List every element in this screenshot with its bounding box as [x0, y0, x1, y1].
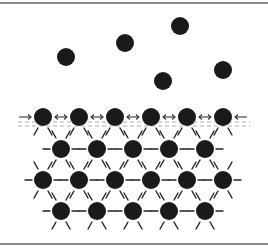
bond-line: [102, 193, 106, 200]
bond-line: [138, 222, 142, 229]
bond-line: [174, 222, 178, 229]
bulk-particle: [88, 202, 106, 220]
bond-line: [178, 191, 182, 198]
bond-line: [120, 191, 124, 198]
surface-particle: [142, 108, 160, 126]
bond-line: [214, 128, 218, 135]
bond-line: [174, 160, 178, 167]
bulk-particle: [214, 171, 232, 189]
bulk-particle: [196, 140, 214, 158]
bulk-particle: [52, 140, 70, 158]
gas-particle: [57, 48, 75, 66]
bond-line: [102, 131, 106, 138]
bond-line: [102, 160, 106, 167]
bond-line: [124, 160, 128, 167]
bond-line: [138, 160, 142, 167]
bond-line: [192, 128, 196, 135]
bond-line: [102, 222, 106, 229]
bond-line: [178, 162, 182, 169]
bond-line: [178, 128, 182, 135]
bond-line: [34, 128, 38, 135]
bond-line: [138, 131, 142, 138]
gas-phase-particles: [57, 17, 232, 90]
bond-line: [106, 128, 110, 135]
bond-line: [160, 160, 164, 167]
bond-line: [120, 128, 124, 135]
bond-line: [106, 162, 110, 169]
bond-line: [138, 193, 142, 200]
bond-line: [196, 131, 200, 138]
bond-line: [48, 128, 52, 135]
bond-line: [52, 222, 56, 229]
gas-particle: [214, 61, 232, 79]
bond-line: [156, 128, 160, 135]
bond-line: [66, 193, 70, 200]
bond-line: [66, 131, 70, 138]
gas-particle: [154, 72, 172, 90]
bond-line: [48, 191, 52, 198]
bond-line: [160, 131, 164, 138]
bulk-particle: [34, 171, 52, 189]
bond-line: [66, 160, 70, 167]
bond-line: [156, 162, 160, 169]
bond-line: [210, 193, 214, 200]
bulk-particle: [88, 140, 106, 158]
bond-line: [228, 191, 232, 198]
bond-line: [106, 191, 110, 198]
surface-particle: [214, 108, 232, 126]
bond-line: [88, 160, 92, 167]
bond-line: [192, 162, 196, 169]
bond-line: [52, 131, 56, 138]
bond-line: [142, 162, 146, 169]
bond-line: [174, 131, 178, 138]
bulk-particle: [124, 202, 142, 220]
bond-line: [160, 222, 164, 229]
bond-line: [88, 131, 92, 138]
bond-line: [214, 162, 218, 169]
bond-line: [210, 131, 214, 138]
bond-line: [66, 222, 70, 229]
bond-line: [84, 162, 88, 169]
bulk-particle: [124, 140, 142, 158]
surface-particle: [106, 108, 124, 126]
bulk-particle: [106, 171, 124, 189]
bond-line: [84, 191, 88, 198]
bond-line: [70, 128, 74, 135]
bond-line: [70, 162, 74, 169]
bond-line: [160, 193, 164, 200]
bond-line: [214, 191, 218, 198]
bond-line: [124, 193, 128, 200]
gas-particle: [116, 34, 134, 52]
surface-particle: [34, 108, 52, 126]
bond-line: [70, 191, 74, 198]
bond-line: [124, 131, 128, 138]
bulk-particle: [160, 202, 178, 220]
bond-line: [52, 193, 56, 200]
bond-line: [88, 193, 92, 200]
bond-line: [228, 128, 232, 135]
bond-line: [210, 222, 214, 229]
bond-line: [210, 160, 214, 167]
bulk-particle: [196, 202, 214, 220]
bond-line: [88, 222, 92, 229]
bulk-particle: [142, 171, 160, 189]
bulk-particle: [70, 171, 88, 189]
bond-line: [228, 162, 232, 169]
surface-tension-diagram: [0, 0, 268, 248]
bond-line: [196, 193, 200, 200]
bond-line: [34, 162, 38, 169]
bulk-particle: [160, 140, 178, 158]
bond-line: [142, 128, 146, 135]
bond-line: [34, 191, 38, 198]
gas-particle: [171, 17, 189, 35]
bond-line: [196, 222, 200, 229]
bulk-particle: [178, 171, 196, 189]
bond-line: [142, 191, 146, 198]
bulk-particle: [52, 202, 70, 220]
bond-line: [84, 128, 88, 135]
bond-line: [192, 191, 196, 198]
surface-particle: [178, 108, 196, 126]
bond-line: [48, 162, 52, 169]
bond-line: [120, 162, 124, 169]
bond-line: [156, 191, 160, 198]
